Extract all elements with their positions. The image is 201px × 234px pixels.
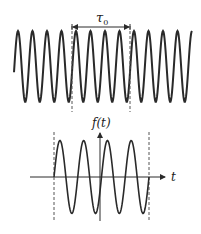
tau0-label: τ0 — [96, 10, 108, 27]
diagram-canvas: τ0 f(t) t — [0, 0, 201, 234]
y-axis-label: f(t) — [91, 116, 111, 130]
x-axis-label: t — [171, 170, 176, 184]
top-panel: τ0 — [14, 10, 192, 112]
bottom-panel: f(t) t — [30, 116, 176, 221]
continuous-sinusoid — [14, 31, 192, 102]
